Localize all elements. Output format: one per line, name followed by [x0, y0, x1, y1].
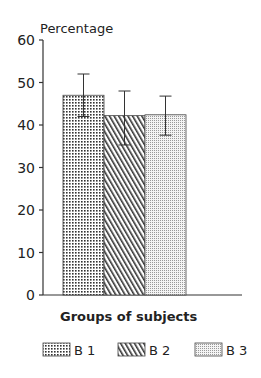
x-axis-label: Groups of subjects: [60, 309, 197, 324]
y-tick-label: 0: [26, 287, 35, 303]
bar-3: [145, 115, 186, 295]
y-tick-label: 10: [17, 245, 35, 261]
bar-1: [63, 95, 104, 295]
y-tick-label: 60: [17, 32, 35, 48]
bars: [63, 74, 186, 295]
legend-label-2: B 2: [149, 343, 170, 358]
legend: B 1B 2B 3: [43, 343, 247, 358]
y-tick-label: 40: [17, 117, 35, 133]
y-axis-label: Percentage: [40, 21, 113, 36]
legend-swatch-3: [195, 343, 222, 356]
y-tick-label: 20: [17, 202, 35, 218]
y-tick-label: 50: [17, 75, 35, 91]
legend-label-1: B 1: [74, 343, 95, 358]
legend-swatch-1: [43, 343, 70, 356]
y-tick-label: 30: [17, 160, 35, 176]
legend-swatch-2: [118, 343, 145, 356]
bar-chart: 0102030405060 Percentage Groups of subje…: [0, 0, 261, 378]
legend-label-3: B 3: [226, 343, 247, 358]
